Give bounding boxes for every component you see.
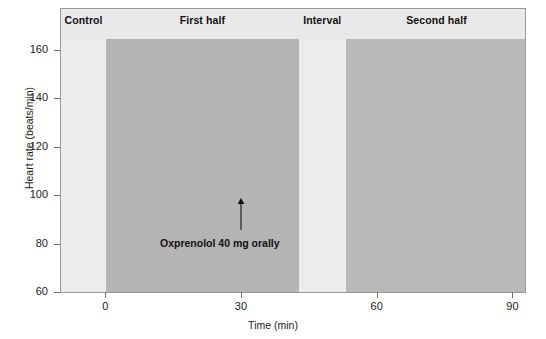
phase-label-first-half: First half xyxy=(106,14,298,26)
y-tick-160 xyxy=(54,50,60,51)
plot-area xyxy=(61,39,526,293)
chart-figure: ControlFirst halfIntervalSecond half Hea… xyxy=(0,0,546,339)
y-tick-label-100: 100 xyxy=(22,188,48,200)
phase-band-first-half xyxy=(106,39,298,293)
phase-label-control: Control xyxy=(61,14,106,26)
plot-frame: ControlFirst halfIntervalSecond half xyxy=(60,8,526,293)
y-tick-100 xyxy=(54,195,60,196)
phase-band-second-half xyxy=(346,39,526,293)
y-tick-120 xyxy=(54,147,60,148)
drug-annotation-arrow-icon xyxy=(235,198,247,230)
y-tick-label-160: 160 xyxy=(22,43,48,55)
x-tick-0 xyxy=(105,292,106,298)
drug-annotation-text: Oxprenolol 40 mg orally xyxy=(160,237,280,249)
x-tick-label-60: 60 xyxy=(362,300,392,312)
phase-band-interval xyxy=(299,39,347,293)
y-tick-label-120: 120 xyxy=(22,140,48,152)
y-tick-label-80: 80 xyxy=(22,237,48,249)
phase-header-strip: ControlFirst halfIntervalSecond half xyxy=(61,9,525,39)
x-tick-90 xyxy=(512,292,513,298)
y-tick-label-60: 60 xyxy=(22,285,48,297)
phase-label-second-half: Second half xyxy=(346,14,526,26)
x-tick-60 xyxy=(377,292,378,298)
x-tick-label-30: 30 xyxy=(226,300,256,312)
x-tick-label-0: 0 xyxy=(90,300,120,312)
y-tick-60 xyxy=(54,292,60,293)
y-tick-label-140: 140 xyxy=(22,91,48,103)
phase-band-control xyxy=(61,39,106,293)
x-axis-label: Time (min) xyxy=(0,319,546,331)
phase-label-interval: Interval xyxy=(299,14,347,26)
x-tick-label-90: 90 xyxy=(497,300,527,312)
x-tick-30 xyxy=(241,292,242,298)
y-tick-80 xyxy=(54,244,60,245)
y-tick-140 xyxy=(54,98,60,99)
